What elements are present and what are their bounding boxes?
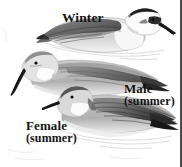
bird-illustration-plate: Winter Male (summer) Female (summer) bbox=[0, 0, 182, 167]
label-male-line2: (summer) bbox=[124, 95, 175, 108]
label-winter: Winter bbox=[62, 11, 104, 26]
label-female-line2: (summer) bbox=[26, 132, 77, 145]
label-male-summer: Male (summer) bbox=[124, 82, 175, 108]
label-female-summer: Female (summer) bbox=[26, 119, 77, 145]
plate-right-border bbox=[180, 0, 182, 167]
